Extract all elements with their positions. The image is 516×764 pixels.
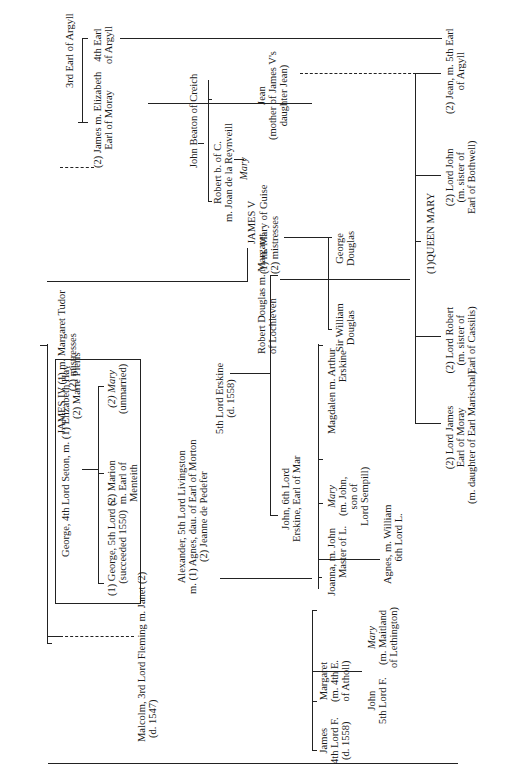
lord-robert: (2) Lord Robert(m. sister ofEarl of Cass… xyxy=(444,306,477,374)
queen-mary: (1)QUEEN MARY xyxy=(425,193,436,274)
douglas-george: GeorgeDouglas xyxy=(334,231,356,266)
beaton-robert: Robert b. of C.m. Joan de la Reynveill xyxy=(212,123,234,222)
seton-father: George, 4th Lord Seton, m. (1) Elizabeth… xyxy=(60,353,82,569)
james-v-children-bar xyxy=(415,74,416,424)
livingston-joanna: Joanna, m. JohnMaster of L. xyxy=(326,526,348,598)
seton-george: (1) George, 5th Lord S.(succeeded 1550) xyxy=(106,498,128,596)
douglas-children-bar xyxy=(328,238,329,330)
livingston: Alexander, 5th Lord Livingstonm. (1) Agn… xyxy=(176,439,209,594)
erskine-john: John, 6th LordErskine, Earl of Mar xyxy=(280,456,302,542)
jean-mother: Jean(mother of James V'sdaughter Jean) xyxy=(256,51,289,140)
fleming-margaret: Margaret(m. 4th E.of Atholl) xyxy=(318,660,351,702)
james-v: JAMES V xyxy=(246,201,257,244)
fleming-children-bar xyxy=(312,611,313,751)
argyll-children-bar xyxy=(82,39,83,123)
livingston-children-bar xyxy=(318,344,319,589)
douglas-william: Sir WilliamDouglas xyxy=(334,303,356,352)
seton-mary: (2) Mary(unmarried) xyxy=(106,364,128,414)
beaton: John Beaton of Creich xyxy=(188,74,199,168)
genealogy-chart: JAMES IV (1) m. Margaret Tudor (2) mistr… xyxy=(0,0,516,764)
livingston-mary: Mary(m. John,son ofLord Sempill) xyxy=(326,467,370,526)
argyll4: 4th Earlof Argyll xyxy=(92,26,114,64)
beaton-mary: Mary xyxy=(238,157,249,180)
argyll-elizabeth: (2) James m. ElizabethEarl of Moray xyxy=(92,72,114,168)
lord-john: (2) Lord John(m. sister ofEarl of Bothwe… xyxy=(444,141,477,214)
fleming-john: John5th Lord F. xyxy=(366,677,388,724)
argyll3: 3rd Earl of Argyll xyxy=(64,13,75,88)
james-iv-spine xyxy=(47,344,48,644)
fleming-mary: Mary(m. Maitlandof Lethington) xyxy=(366,607,399,668)
livingston-magdalen: Magdalen m. ArthurErskine xyxy=(326,349,348,434)
james-v-marriages: (1) m. Mary of Guise (2) mistresses xyxy=(258,184,280,274)
jean: (2) Jean, m. 5th Earlof Argyll xyxy=(444,28,466,114)
lord-james: (2) Lord JamesEarl of Moray(m. daughter … xyxy=(444,371,477,504)
seton-marion: (2) Marionm. Earl ofMenteith xyxy=(106,460,139,506)
fleming-james: James4th Lord F.(d. 1558) xyxy=(318,717,351,764)
livingston-agnes: Agnes, m. William6th Lord L. xyxy=(382,505,404,584)
fleming: Malcolm, 3rd Lord Fleming m. Janet (2)(d… xyxy=(136,572,158,742)
james-v-link xyxy=(47,281,247,282)
